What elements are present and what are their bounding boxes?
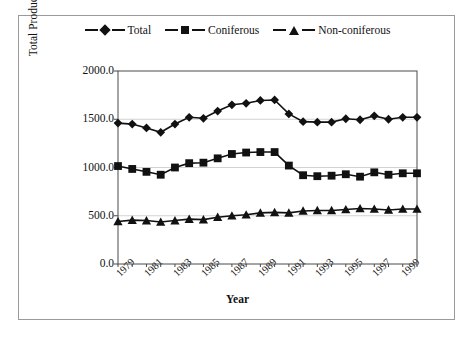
- plot-area-wrapper: 0.0500.01000.01500.02000.0 1979198119831…: [19, 16, 456, 321]
- x-axis-title: Year: [19, 293, 456, 305]
- chart-frame: Total Coniferous Non-coniferous Total Pr…: [18, 15, 455, 320]
- plot-svg: [19, 16, 456, 321]
